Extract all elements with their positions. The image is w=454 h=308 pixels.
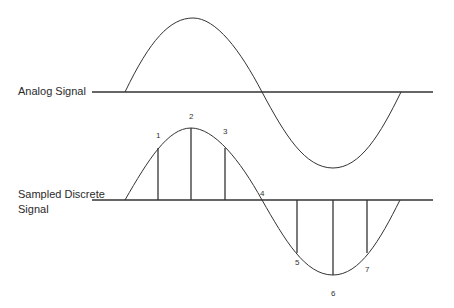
sampled-wave: [125, 128, 400, 275]
sample-number-3: 3: [223, 127, 228, 136]
sample-number-1: 1: [156, 131, 161, 140]
sample-number-4: 4: [260, 189, 265, 198]
signal-diagram: 1 2 3 4 5 6 7: [0, 0, 454, 308]
sample-numbers: 1 2 3 4 5 6 7: [156, 112, 370, 298]
sample-number-2: 2: [189, 112, 194, 121]
analog-wave: [125, 18, 401, 168]
sample-number-5: 5: [295, 258, 300, 267]
sample-number-7: 7: [365, 265, 370, 274]
sample-number-6: 6: [331, 289, 336, 298]
